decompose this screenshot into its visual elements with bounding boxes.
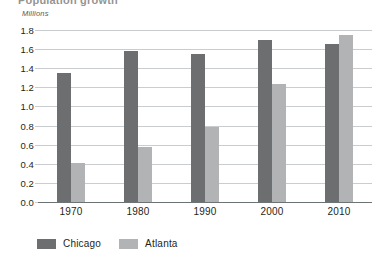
y-axis-unit-label: Millions: [22, 9, 49, 18]
bar-chicago-2000: [258, 40, 272, 202]
bar-chicago-1970: [57, 73, 71, 202]
bar-chicago-2010: [325, 44, 339, 202]
bar-chicago-1990: [191, 54, 205, 202]
y-tick-label: 1.2: [20, 82, 34, 93]
y-tick-label: 1.4: [20, 63, 34, 74]
y-axis-tick-labels: 0.00.20.40.60.81.01.21.41.61.8: [8, 30, 34, 202]
y-tick-label: 0.2: [20, 178, 34, 189]
plot-area: [38, 30, 372, 202]
y-tick-label: 0.0: [20, 197, 34, 208]
bar-atlanta-1990: [205, 127, 219, 202]
chart-legend: Chicago Atlanta: [37, 238, 178, 249]
legend-item-chicago[interactable]: Chicago: [37, 238, 101, 249]
x-tick-label-1970: 1970: [59, 206, 82, 217]
y-tick-label: 0.8: [20, 121, 34, 132]
legend-swatch-atlanta-icon: [119, 239, 138, 249]
x-tick-label-1990: 1990: [193, 206, 216, 217]
bar-atlanta-2000: [272, 84, 286, 202]
bar-atlanta-1980: [138, 147, 152, 202]
y-tick-label: 1.8: [20, 25, 34, 36]
bar-atlanta-2010: [339, 35, 353, 202]
bar-atlanta-1970: [71, 163, 85, 202]
legend-swatch-chicago-icon: [37, 239, 56, 249]
x-axis-baseline: [38, 202, 372, 203]
y-tick-label: 1.6: [20, 44, 34, 55]
clipped-title: Population growth: [18, 0, 118, 6]
x-tick-label-2000: 2000: [260, 206, 283, 217]
x-tick-label-2010: 2010: [327, 206, 350, 217]
legend-label-chicago: Chicago: [63, 238, 101, 249]
bars-layer: [38, 30, 372, 202]
population-bar-chart-figure: Population growth Millions 0.00.20.40.60…: [0, 0, 379, 261]
x-tick-label-1980: 1980: [126, 206, 149, 217]
y-tick-label: 1.0: [20, 101, 34, 112]
y-tick-label: 0.4: [20, 159, 34, 170]
bar-chicago-1980: [124, 51, 138, 202]
y-tick-label: 0.6: [20, 140, 34, 151]
legend-label-atlanta: Atlanta: [145, 238, 178, 249]
legend-item-atlanta[interactable]: Atlanta: [119, 238, 178, 249]
